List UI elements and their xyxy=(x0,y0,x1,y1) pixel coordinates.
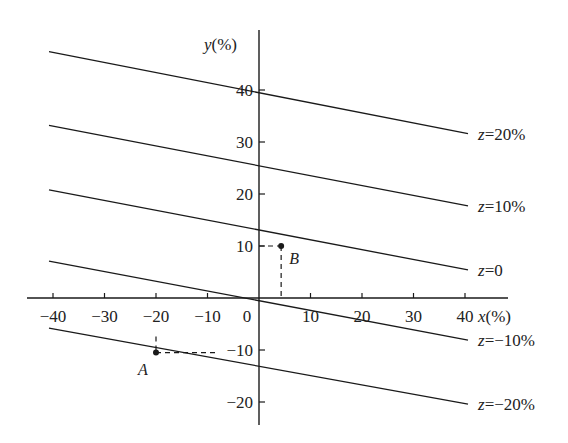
x-tick-label: 40 xyxy=(457,307,474,326)
iso-line-label: z=−20% xyxy=(477,395,535,414)
x-tick-label: −30 xyxy=(91,307,118,326)
iso-line-label: z=20% xyxy=(477,125,525,144)
y-tick-label: 10 xyxy=(236,237,253,256)
x-tick-label: −20 xyxy=(143,307,170,326)
x-axis-label: x(%) xyxy=(477,307,511,326)
x-tick-label: 20 xyxy=(354,307,371,326)
y-tick-label: 20 xyxy=(236,185,253,204)
x-tick-label: 30 xyxy=(405,307,422,326)
point-a-marker xyxy=(153,350,159,356)
point-b-label: B xyxy=(289,250,299,267)
x-tick-label: −10 xyxy=(194,307,221,326)
point-a-label: A xyxy=(137,361,148,378)
x-tick-label: 0 xyxy=(243,307,252,326)
x-tick-label: −40 xyxy=(40,307,67,326)
iso-line-label: z=−10% xyxy=(477,331,535,350)
iso-z-chart: −40−30−20−1001020304040302010−10−20x(%)y… xyxy=(0,0,568,443)
iso-line-label: z=0 xyxy=(477,261,503,280)
y-tick-label: −10 xyxy=(226,341,253,360)
y-axis-label: y(%) xyxy=(202,35,237,54)
point-b-marker xyxy=(278,243,284,249)
y-tick-label: −20 xyxy=(226,393,253,412)
y-tick-label: 30 xyxy=(236,133,253,152)
iso-line-label: z=10% xyxy=(477,197,525,216)
